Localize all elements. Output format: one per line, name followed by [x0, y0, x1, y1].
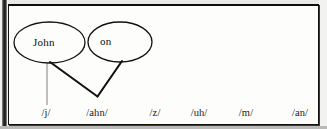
connector-john-to-ahn: [50, 62, 98, 97]
phoneme-label-1: /j/: [41, 107, 50, 118]
phoneme-label-4: /uh/: [191, 107, 208, 118]
phoneme-label-6: /an/: [292, 107, 308, 118]
connector-on-to-ahn: [98, 61, 123, 97]
figure-page: John on /j/ /ahn/ /z/ /uh/ /m/ /an/: [0, 0, 327, 129]
phoneme-label-5: /m/: [239, 107, 253, 118]
word-label-on: on: [100, 35, 111, 47]
word-bubble-on[interactable]: [88, 22, 152, 62]
word-label-john: John: [33, 36, 55, 48]
phoneme-label-2: /ahn/: [86, 107, 108, 118]
phoneme-label-3: /z/: [150, 107, 161, 118]
